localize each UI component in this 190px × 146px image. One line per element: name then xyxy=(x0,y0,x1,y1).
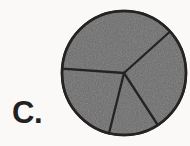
figure-label: C. xyxy=(12,96,42,130)
figure-panel: C. xyxy=(0,0,190,146)
pie-body xyxy=(62,11,186,135)
